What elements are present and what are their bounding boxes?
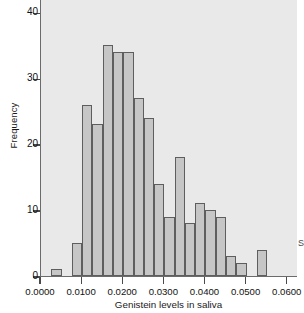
x-axis-tick-label: 0.0300 <box>140 286 186 297</box>
y-axis-tick-label: 0 <box>0 270 38 281</box>
x-axis-tick <box>204 277 205 284</box>
x-axis-tick-label: 0.0100 <box>58 286 104 297</box>
x-axis-tick-label: 0.0500 <box>223 286 269 297</box>
histogram-bar <box>185 223 195 276</box>
x-axis-tick-label: 0.0200 <box>99 286 145 297</box>
x-axis-title: Genistein levels in saliva <box>40 299 297 310</box>
histogram-bar <box>216 217 226 276</box>
histogram-bar <box>195 203 205 276</box>
x-axis-tick-label: 0.0000 <box>17 286 63 297</box>
x-axis-tick <box>163 277 164 284</box>
histogram-bar <box>134 98 144 276</box>
histogram-bar <box>72 243 82 276</box>
x-axis-tick <box>286 277 287 284</box>
histogram-bar <box>123 52 133 276</box>
histogram-bar <box>92 124 102 276</box>
y-axis-tick-label: 30 <box>0 72 38 83</box>
y-axis-title: Frequency <box>8 81 19 171</box>
plot-area <box>40 0 297 277</box>
histogram-bar <box>51 269 61 276</box>
histogram-bar <box>103 45 113 276</box>
histogram-bar <box>175 157 185 276</box>
clipped-edge-glyph: S <box>298 238 304 248</box>
histogram-bar <box>154 184 164 276</box>
histogram-figure: Frequency 010203040 0.00000.01000.02000.… <box>0 0 304 313</box>
histogram-bar <box>113 52 123 276</box>
y-axis-tick-label: 10 <box>0 204 38 215</box>
x-axis-tick <box>122 277 123 284</box>
x-axis-tick-label: 0.0600 <box>264 286 304 297</box>
bars-container <box>41 0 297 276</box>
histogram-bar <box>236 263 246 276</box>
histogram-bar <box>164 217 174 276</box>
x-axis-tick <box>39 277 40 284</box>
histogram-bar <box>144 118 154 276</box>
histogram-bar <box>226 256 236 276</box>
y-axis-tick-label: 40 <box>0 6 38 17</box>
x-axis-tick <box>245 277 246 284</box>
x-axis-tick-label: 0.0400 <box>181 286 227 297</box>
histogram-bar <box>205 210 215 276</box>
x-axis-tick <box>81 277 82 284</box>
histogram-bar <box>82 105 92 276</box>
histogram-bar <box>257 250 267 276</box>
y-axis-tick-label: 20 <box>0 138 38 149</box>
